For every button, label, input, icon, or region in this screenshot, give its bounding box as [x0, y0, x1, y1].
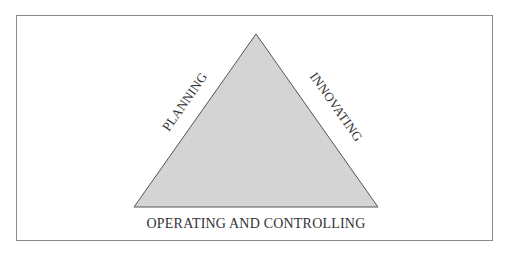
operating-controlling-label: OPERATING AND CONTROLLING	[147, 216, 366, 232]
